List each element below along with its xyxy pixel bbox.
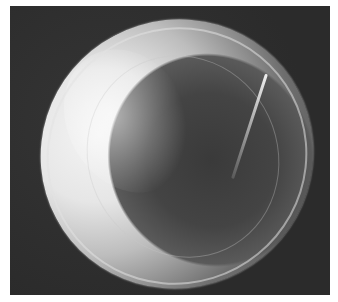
micrograph-frame <box>10 6 330 295</box>
